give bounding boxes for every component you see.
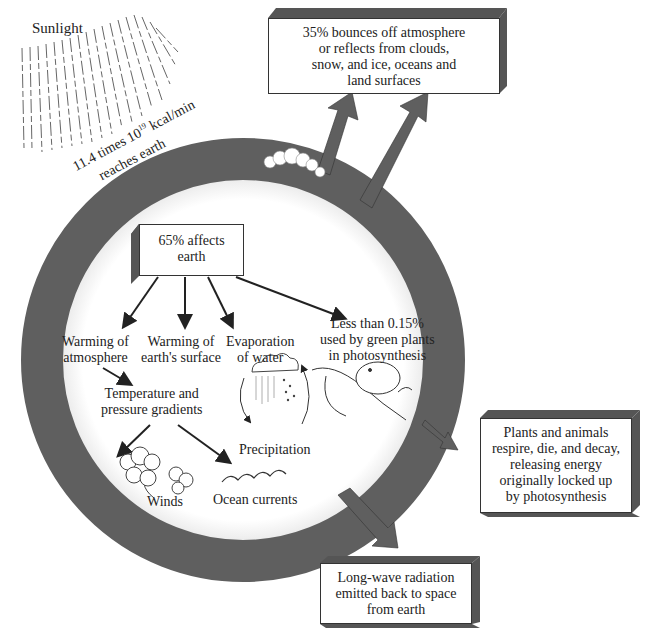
effect-photosynthesis: Less than 0.15%used by green plantsin ph… <box>320 316 435 364</box>
longwave-box: Long-wave radiationemitted back to space… <box>320 563 472 624</box>
reflected-box: 35% bounces off atmosphereor reflects fr… <box>268 18 500 94</box>
decay-box: Plants and animalsrespire, die, and deca… <box>480 418 632 513</box>
ocean-currents-label: Ocean currents <box>213 492 297 508</box>
effect-surface: Warming ofearth's surface <box>141 334 221 366</box>
precipitation-label: Precipitation <box>239 442 311 458</box>
effect-evaporation: Evaporationof water <box>226 334 294 366</box>
sunlight-label: Sunlight <box>32 20 83 36</box>
gradients-label: Temperature andpressure gradients <box>101 386 202 418</box>
affects-earth-box: 65% affectsearth <box>139 224 244 276</box>
effect-atmosphere: Warming ofatmosphere <box>62 334 129 366</box>
winds-label: Winds <box>147 494 183 510</box>
